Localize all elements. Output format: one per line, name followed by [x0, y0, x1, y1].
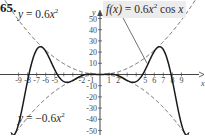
- y-tick-label: -50: [86, 127, 97, 136]
- label-exp: 2: [61, 111, 65, 119]
- label-exp: 2: [55, 7, 59, 15]
- label-coef: 0.6: [134, 3, 148, 15]
- upper-envelope-label: y = 0.6x2: [18, 8, 58, 21]
- label-coef: −0.6: [35, 112, 56, 124]
- lower-envelope-label: y = −0.6x2: [18, 112, 65, 125]
- x-tick-label: 5: [143, 76, 147, 85]
- y-tick-label: 10: [89, 59, 97, 68]
- function-label: f(x) = 0.6x2 cos x: [103, 1, 186, 18]
- y-tick-label: -40: [86, 115, 97, 124]
- y-tick-label: -20: [86, 93, 97, 102]
- label-leader-line: [122, 16, 147, 63]
- label-equals: =: [23, 112, 35, 124]
- label-equals: =: [23, 8, 35, 20]
- x-tick-label: -7: [33, 76, 40, 85]
- label-coef: 0.6: [35, 8, 49, 20]
- label-equals: =: [122, 3, 134, 15]
- x-tick-label: 6: [152, 76, 156, 85]
- label-arg: x: [178, 3, 183, 15]
- y-tick-label: 30: [89, 37, 97, 46]
- y-axis-arrow-icon: [98, 10, 103, 16]
- x-tick-label: -5: [51, 76, 58, 85]
- x-tick-label: 7: [161, 76, 165, 85]
- y-tick-label: 50: [89, 15, 97, 24]
- y-tick-label: -10: [86, 82, 97, 91]
- x-tick-label: 1: [107, 76, 111, 85]
- leader-line: [122, 16, 147, 63]
- y-tick-label: -30: [86, 104, 97, 113]
- x-axis-arrow-icon: [199, 72, 204, 77]
- label-lhs: f(x): [106, 3, 122, 15]
- y-tick-label: 20: [89, 48, 97, 57]
- x-axis-label: x: [200, 79, 205, 88]
- problem-number: 65.: [0, 0, 16, 16]
- label-trig: cos: [157, 3, 178, 15]
- y-tick-label: 40: [89, 26, 97, 35]
- x-tick-label: -9: [15, 76, 22, 85]
- x-tick-label: 9: [179, 76, 183, 85]
- x-tick-label: -6: [42, 76, 49, 85]
